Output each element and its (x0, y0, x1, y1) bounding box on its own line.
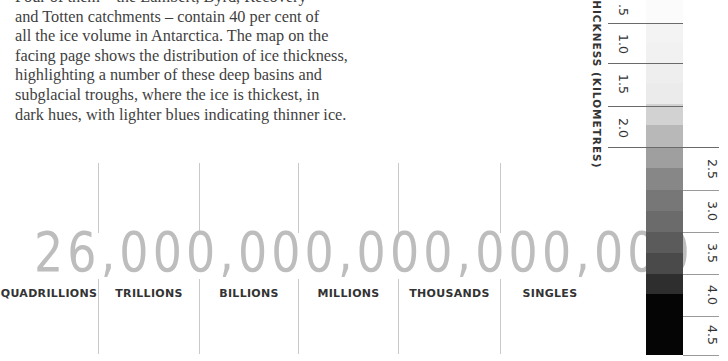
legend-band (646, 253, 683, 274)
place-label-trillions: TRILLIONS (99, 286, 199, 302)
legend-band (646, 104, 683, 125)
legend-tick (608, 106, 683, 107)
legend-band (646, 63, 683, 83)
thickness-legend-strip (646, 0, 683, 355)
article-line: all the ice volume in Antarctica. The ma… (15, 26, 345, 46)
legend-band (646, 190, 683, 211)
legend-band (646, 125, 683, 147)
legend-title: THICKNESS (KILOMETRES) (590, 0, 604, 162)
article-line: highlighting a number of these deep basi… (15, 65, 345, 85)
ice-volume-number: 26,000,000,000,000,000 (34, 221, 694, 283)
article-paragraph: Four of them – the Lambert, Byrd, Recove… (15, 0, 345, 124)
legend-band (646, 83, 683, 104)
legend-band (646, 294, 683, 355)
legend-label: 4.0 (704, 275, 720, 315)
legend-band (646, 0, 683, 23)
legend-label: 4.5 (704, 315, 720, 355)
article-line: subglacial troughs, where the ice is thi… (15, 85, 345, 105)
article-line: dark hues, with lighter blues indicating… (15, 105, 345, 125)
legend-label: 1.0 (615, 24, 631, 64)
article-line: facing page shows the distribution of ic… (15, 46, 345, 66)
legend-label: 3.5 (704, 233, 720, 273)
legend-band (646, 211, 683, 232)
place-label-thousands: THOUSANDS (399, 286, 500, 302)
legend-label: 1.5 (615, 64, 631, 104)
place-label-millions: MILLIONS (299, 286, 398, 302)
place-label-quadrillions: QUADRILLIONS (0, 286, 98, 302)
legend-band (646, 23, 683, 43)
legend-band (646, 147, 683, 168)
place-label-singles: SINGLES (501, 286, 599, 302)
article-line: Four of them – the Lambert, Byrd, Recove… (15, 0, 345, 7)
legend-band (646, 43, 683, 63)
article-line: and Totten catchments – contain 40 per c… (15, 7, 345, 27)
legend-label: 2.5 (704, 149, 720, 189)
place-label-billions: BILLIONS (200, 286, 298, 302)
legend-label: 2.0 (615, 108, 631, 148)
legend-band (646, 232, 683, 253)
legend-band (646, 168, 683, 190)
legend-label: 3.0 (704, 191, 720, 231)
legend-band (646, 274, 683, 294)
legend-tick (683, 355, 719, 356)
